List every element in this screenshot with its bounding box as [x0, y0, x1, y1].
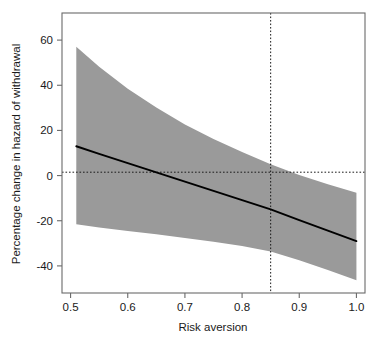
chart-svg: 0.50.60.70.80.91.0 -40-200204060 Risk av… [0, 0, 390, 344]
x-tick-label: 1.0 [348, 301, 364, 313]
x-axis-title: Risk aversion [178, 321, 247, 333]
y-axis-title: Percentage change in hazard of withdrawa… [10, 44, 22, 265]
y-tick-label: 60 [40, 34, 53, 46]
x-tick-label: 0.6 [120, 301, 136, 313]
y-tick-label: -20 [36, 215, 53, 227]
x-tick-label: 0.5 [63, 301, 79, 313]
chart-figure: 0.50.60.70.80.91.0 -40-200204060 Risk av… [0, 0, 390, 344]
y-tick-label: 20 [40, 124, 53, 136]
y-tick-label: 40 [40, 79, 53, 91]
x-tick-label: 0.7 [177, 301, 193, 313]
x-tick-label: 0.9 [291, 301, 307, 313]
y-tick-label: 0 [47, 170, 53, 182]
y-tick-label: -40 [36, 260, 53, 272]
x-tick-label: 0.8 [234, 301, 250, 313]
